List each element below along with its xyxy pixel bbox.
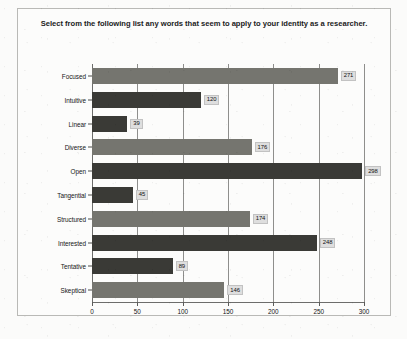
- bar-value-label-structured: 174: [253, 214, 269, 224]
- y-axis-label-skeptical: Skeptical: [61, 287, 86, 294]
- bar-value-label-focused: 271: [341, 71, 357, 81]
- bar-value-label-skeptical: 146: [227, 285, 243, 295]
- bar-tentative[interactable]: [92, 258, 173, 274]
- bar-structured[interactable]: [92, 211, 250, 227]
- bar-value-label-tentative: 89: [176, 261, 188, 271]
- x-axis-tick-300: [364, 302, 365, 306]
- y-axis-label-interested: Interested: [58, 239, 86, 246]
- y-axis-tick: [88, 171, 92, 172]
- x-axis-tick-label-100: 100: [177, 308, 188, 315]
- y-axis-label-structured: Structured: [57, 215, 86, 222]
- bar-row: [92, 258, 364, 274]
- x-axis-tick-250: [319, 302, 320, 306]
- chart-title-line-1: Select from the following list any words…: [41, 19, 325, 28]
- y-axis-label-linear: Linear: [69, 120, 86, 127]
- x-axis-tick-label-250: 250: [313, 308, 324, 315]
- bar-focused[interactable]: [92, 68, 338, 84]
- bar-interested[interactable]: [92, 235, 317, 251]
- bar-row: [92, 139, 364, 155]
- y-axis-label-focused: Focused: [62, 72, 86, 79]
- x-axis-tick-0: [92, 302, 93, 306]
- x-axis-tick-label-0: 0: [90, 308, 94, 315]
- bar-linear[interactable]: [92, 116, 127, 132]
- y-axis-tick: [88, 123, 92, 124]
- x-axis-tick-50: [137, 302, 138, 306]
- y-axis-tick: [88, 147, 92, 148]
- bar-row: [92, 211, 364, 227]
- y-axis-tick: [88, 290, 92, 291]
- chart-title: Select from the following list any words…: [28, 18, 380, 29]
- y-axis-label-tangential: Tangential: [57, 191, 86, 198]
- bar-value-label-interested: 248: [320, 238, 336, 248]
- bar-value-label-linear: 39: [130, 119, 142, 129]
- x-axis-tick-label-150: 150: [223, 308, 234, 315]
- gridline-300: [364, 64, 365, 302]
- y-axis-label-open: Open: [71, 168, 86, 175]
- x-axis-tick-200: [273, 302, 274, 306]
- bar-tangential[interactable]: [92, 187, 133, 203]
- bar-row: [92, 163, 364, 179]
- y-axis-tick: [88, 242, 92, 243]
- y-axis-tick: [88, 266, 92, 267]
- y-axis-label-intuitive: Intuitive: [64, 96, 86, 103]
- plot-inner: 271120391762984517424889146: [92, 64, 364, 302]
- bar-row: [92, 187, 364, 203]
- y-axis-label-diverse: Diverse: [65, 144, 86, 151]
- bar-value-label-open: 298: [365, 166, 381, 176]
- y-axis-tick: [88, 75, 92, 76]
- chart-title-line-2: researcher.: [327, 19, 367, 28]
- plot-area: 271120391762984517424889146: [92, 64, 364, 302]
- bar-value-label-intuitive: 120: [204, 95, 220, 105]
- bar-skeptical[interactable]: [92, 282, 224, 298]
- x-axis-tick-label-50: 50: [134, 308, 141, 315]
- bar-value-label-diverse: 176: [255, 142, 271, 152]
- y-axis-tick: [88, 194, 92, 195]
- bar-row: [92, 92, 364, 108]
- y-axis-label-tentative: Tentative: [61, 263, 86, 270]
- bar-open[interactable]: [92, 163, 362, 179]
- y-axis-tick: [88, 99, 92, 100]
- x-axis-tick-label-200: 200: [268, 308, 279, 315]
- x-axis-tick-label-300: 300: [359, 308, 370, 315]
- y-axis-tick: [88, 218, 92, 219]
- bar-row: [92, 68, 364, 84]
- bar-value-label-tangential: 45: [136, 190, 148, 200]
- bar-intuitive[interactable]: [92, 92, 201, 108]
- bar-diverse[interactable]: [92, 139, 252, 155]
- chart-page: Select from the following list any words…: [0, 0, 407, 339]
- x-axis-tick-150: [228, 302, 229, 306]
- x-axis-tick-100: [183, 302, 184, 306]
